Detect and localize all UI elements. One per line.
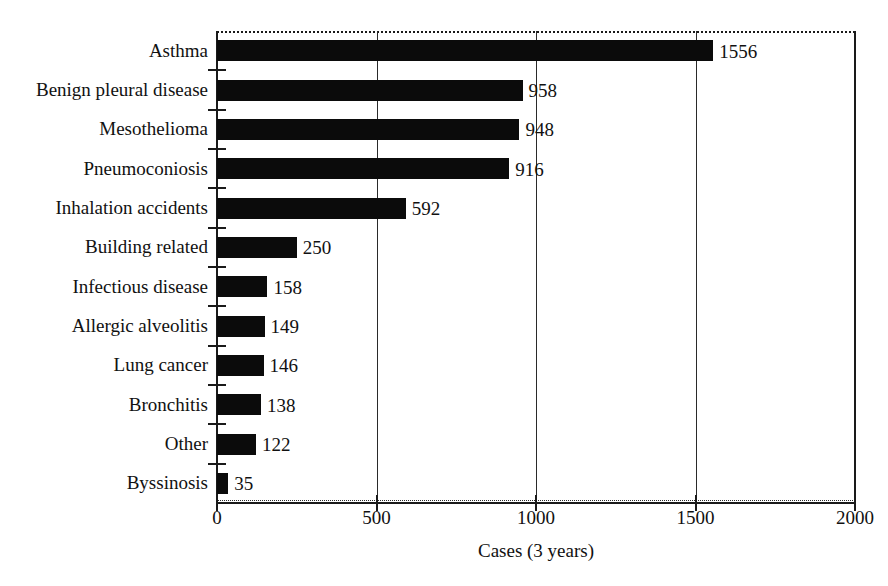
category-axis-labels: AsthmaBenign pleural diseaseMesothelioma… bbox=[0, 31, 217, 503]
category-label: Other bbox=[5, 433, 217, 454]
y-tick-4 bbox=[208, 187, 226, 189]
bar[interactable] bbox=[217, 198, 406, 219]
bar[interactable] bbox=[217, 119, 519, 140]
x-tick-label-2000: 2000 bbox=[836, 508, 874, 527]
bar-value-label: 149 bbox=[265, 317, 300, 336]
bar-value-label: 592 bbox=[406, 199, 441, 218]
category-label: Pneumoconiosis bbox=[5, 158, 217, 179]
bar-chart: AsthmaBenign pleural diseaseMesothelioma… bbox=[0, 0, 888, 586]
bar-row[interactable]: 149 bbox=[217, 316, 855, 337]
plot-area: 155695894891659225015814914613812235 bbox=[217, 31, 855, 503]
category-label: Asthma bbox=[5, 40, 217, 61]
bar-value-label: 138 bbox=[261, 395, 296, 414]
category-label: Byssinosis bbox=[5, 472, 217, 493]
bar-value-label: 1556 bbox=[713, 41, 757, 60]
x-tick-label-1500: 1500 bbox=[677, 508, 715, 527]
bar-value-label: 948 bbox=[519, 120, 554, 139]
bar-value-label: 146 bbox=[264, 356, 299, 375]
bar[interactable] bbox=[217, 355, 264, 376]
bar-row[interactable]: 592 bbox=[217, 198, 855, 219]
bar-value-label: 958 bbox=[523, 81, 558, 100]
bar-value-label: 916 bbox=[509, 159, 544, 178]
bar-row[interactable]: 250 bbox=[217, 237, 855, 258]
y-tick-3 bbox=[208, 148, 226, 150]
plot-right-border bbox=[854, 31, 856, 503]
category-label: Allergic alveolitis bbox=[5, 315, 217, 336]
bar[interactable] bbox=[217, 394, 261, 415]
category-label: Infectious disease bbox=[5, 276, 217, 297]
gridline-1500 bbox=[696, 31, 697, 503]
y-tick-8 bbox=[208, 345, 226, 347]
bar-row[interactable]: 138 bbox=[217, 394, 855, 415]
bar-row[interactable]: 958 bbox=[217, 80, 855, 101]
y-tick-5 bbox=[208, 227, 226, 229]
bar[interactable] bbox=[217, 237, 297, 258]
gridline-500 bbox=[377, 31, 378, 503]
bar[interactable] bbox=[217, 434, 256, 455]
bar[interactable] bbox=[217, 473, 228, 494]
y-tick-2 bbox=[208, 109, 226, 111]
bar-value-label: 35 bbox=[228, 474, 253, 493]
y-tick-7 bbox=[208, 305, 226, 307]
category-label: Lung cancer bbox=[5, 354, 217, 375]
category-label: Benign pleural disease bbox=[5, 79, 217, 100]
category-label: Building related bbox=[5, 236, 217, 257]
bar[interactable] bbox=[217, 80, 523, 101]
bar[interactable] bbox=[217, 158, 509, 179]
bar-row[interactable]: 1556 bbox=[217, 40, 855, 61]
bar-value-label: 250 bbox=[297, 238, 332, 257]
x-tick-label-0: 0 bbox=[212, 508, 222, 527]
bar-row[interactable]: 122 bbox=[217, 434, 855, 455]
bar-row[interactable]: 158 bbox=[217, 276, 855, 297]
gridline-1000 bbox=[536, 31, 537, 503]
y-tick-10 bbox=[208, 423, 226, 425]
bar-row[interactable]: 35 bbox=[217, 473, 855, 494]
category-label: Bronchitis bbox=[5, 394, 217, 415]
bar[interactable] bbox=[217, 316, 265, 337]
bar[interactable] bbox=[217, 276, 267, 297]
bar-value-label: 122 bbox=[256, 435, 291, 454]
x-tick-label-1000: 1000 bbox=[517, 508, 555, 527]
bar-row[interactable]: 916 bbox=[217, 158, 855, 179]
x-axis-title: Cases (3 years) bbox=[217, 541, 855, 561]
category-label: Inhalation accidents bbox=[5, 197, 217, 218]
y-tick-9 bbox=[208, 384, 226, 386]
y-tick-1 bbox=[208, 69, 226, 71]
bar[interactable] bbox=[217, 40, 713, 61]
x-tick-label-500: 500 bbox=[362, 508, 391, 527]
y-tick-11 bbox=[208, 463, 226, 465]
bar-value-label: 158 bbox=[267, 277, 302, 296]
bar-row[interactable]: 146 bbox=[217, 355, 855, 376]
category-label: Mesothelioma bbox=[5, 118, 217, 139]
y-tick-6 bbox=[208, 266, 226, 268]
bar-row[interactable]: 948 bbox=[217, 119, 855, 140]
